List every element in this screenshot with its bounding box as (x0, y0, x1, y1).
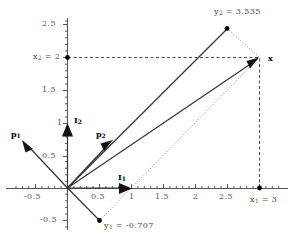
xtick-label-neg-0-5: -0.5 (24, 193, 41, 201)
arrowhead-p1 (22, 140, 33, 153)
label-x2-value: x2 = 2 (33, 53, 60, 61)
label-vector-x: x (268, 54, 273, 62)
ytick-label-1: 1 (57, 119, 63, 127)
label-p2-subscript: 2 (102, 132, 106, 139)
xtick-label-2: 2 (193, 193, 199, 201)
line-origin-to-y2 (68, 30, 227, 188)
label-x1-value: x1 = 3 (250, 196, 277, 204)
ytick-label-2-5: 2.5 (42, 20, 56, 28)
point-x2-foot (65, 55, 70, 60)
xtick-label-1-5: 1.5 (155, 193, 169, 201)
dotted-y1-to-x (100, 58, 260, 221)
label-y2-value: y2 = 3.535 (214, 8, 261, 16)
vector-projection-figure: y2 = 3.535 y1 = -0.707 x2 = 2 x1 = 3 x p… (0, 0, 296, 240)
x-axis-ticks (16, 184, 279, 188)
ytick-label-0-5: 0.5 (42, 152, 56, 160)
label-y1-value: y1 = -0.707 (104, 222, 154, 230)
label-vector-p2: p2 (96, 130, 106, 139)
label-vector-I1: I1 (118, 173, 126, 182)
label-y1-equation: = -0.707 (113, 221, 154, 230)
xtick-label-2-5: 2.5 (219, 193, 233, 201)
label-p1-subscript: 1 (17, 132, 21, 139)
label-x2-equation: = 2 (42, 52, 60, 61)
ytick-label-1-5: 1.5 (42, 86, 56, 94)
line-x-vector (68, 63, 253, 188)
xtick-label-1: 1 (129, 193, 135, 201)
label-I2-subscript: 2 (78, 118, 82, 125)
arrowhead-I2 (62, 123, 73, 137)
label-vector-I2: I2 (74, 116, 82, 125)
xtick-label-0-5: 0.5 (91, 193, 105, 201)
plot-canvas (0, 0, 296, 240)
point-y1 (97, 218, 102, 223)
label-vector-p1: p1 (11, 130, 21, 139)
label-x1-equation: = 3 (259, 195, 277, 204)
dotted-y2-to-x (227, 29, 259, 58)
label-I1-subscript: 1 (122, 175, 126, 182)
line-p2-vector (68, 148, 106, 188)
point-y2 (225, 26, 230, 31)
arrowhead-x-vector (247, 58, 260, 69)
point-x1-foot (257, 186, 262, 191)
label-y2-equation: = 3.535 (223, 7, 261, 16)
y-axis-ticks (63, 21, 67, 227)
ytick-label-neg-0-5: -0.5 (40, 216, 57, 224)
